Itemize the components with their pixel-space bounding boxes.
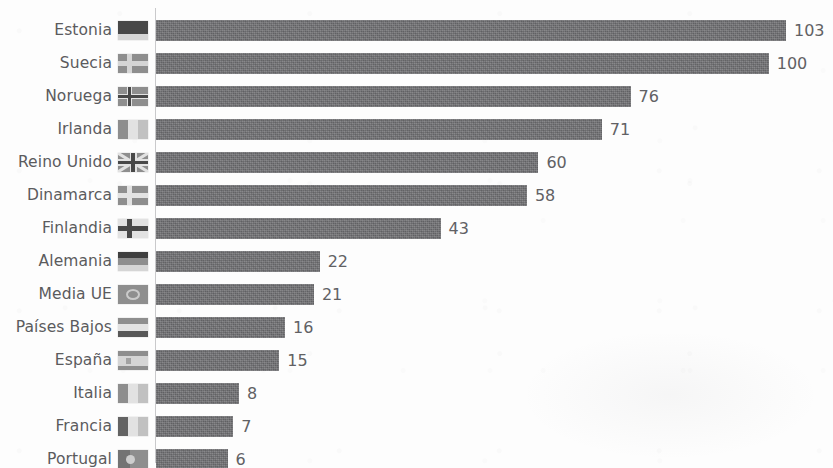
category-label: Reino Unido (0, 146, 112, 179)
flag-estonia-icon (118, 21, 148, 40)
chart-row: Países Bajos16 (0, 311, 833, 344)
chart-row: Estonia103 (0, 14, 833, 47)
category-label: Italia (0, 377, 112, 410)
flag-ireland-icon (118, 120, 148, 139)
chart-row: Francia7 (0, 410, 833, 443)
flag-spain-icon (118, 351, 148, 370)
category-label: Dinamarca (0, 179, 112, 212)
bar (156, 185, 527, 206)
chart-row: Suecia100 (0, 47, 833, 80)
category-label: Finlandia (0, 212, 112, 245)
bar-value-label: 58 (535, 185, 555, 206)
category-label: Portugal (0, 443, 112, 468)
category-label: Países Bajos (0, 311, 112, 344)
bar-value-label: 103 (794, 20, 825, 41)
flag-united-kingdom-icon (118, 153, 148, 172)
category-label: Francia (0, 410, 112, 443)
bar (156, 284, 314, 305)
flag-germany-icon (118, 252, 148, 271)
flag-sweden-icon (118, 54, 148, 73)
category-label: Estonia (0, 14, 112, 47)
bar-value-label: 71 (610, 119, 630, 140)
bar (156, 86, 631, 107)
chart-row: España15 (0, 344, 833, 377)
bar-value-label: 7 (241, 416, 251, 437)
chart-row: Italia8 (0, 377, 833, 410)
bar (156, 53, 769, 74)
category-label: Suecia (0, 47, 112, 80)
category-label: Media UE (0, 278, 112, 311)
flag-italy-icon (118, 384, 148, 403)
chart-row: Alemania22 (0, 245, 833, 278)
chart-row: Portugal6 (0, 443, 833, 468)
bar (156, 383, 239, 404)
bar (156, 218, 441, 239)
bar (156, 416, 233, 437)
bar (156, 449, 228, 468)
flag-portugal-icon (118, 450, 148, 468)
category-label: España (0, 344, 112, 377)
bar-value-label: 6 (236, 449, 246, 468)
flag-norway-icon (118, 87, 148, 106)
chart-row: Media UE21 (0, 278, 833, 311)
chart-row: Finlandia43 (0, 212, 833, 245)
chart-row: Irlanda71 (0, 113, 833, 146)
bar-value-label: 21 (322, 284, 342, 305)
chart-row: Noruega76 (0, 80, 833, 113)
category-label: Alemania (0, 245, 112, 278)
bar-value-label: 60 (546, 152, 566, 173)
bar-value-label: 43 (449, 218, 469, 239)
bar (156, 152, 538, 173)
category-label: Noruega (0, 80, 112, 113)
flag-france-icon (118, 417, 148, 436)
flag-finland-icon (118, 219, 148, 238)
bar-value-label: 15 (287, 350, 307, 371)
chart-row: Dinamarca58 (0, 179, 833, 212)
bar (156, 119, 602, 140)
bar-value-label: 76 (639, 86, 659, 107)
bar-value-label: 100 (777, 53, 808, 74)
flag-netherlands-icon (118, 318, 148, 337)
bar (156, 317, 285, 338)
bar-value-label: 22 (328, 251, 348, 272)
bar-value-label: 8 (247, 383, 257, 404)
bar-value-label: 16 (293, 317, 313, 338)
bar-chart: Estonia103Suecia100Noruega76Irlanda71Rei… (0, 0, 833, 468)
flag-denmark-icon (118, 186, 148, 205)
flag-european-union-icon (118, 285, 148, 304)
chart-row: Reino Unido60 (0, 146, 833, 179)
bar (156, 350, 279, 371)
bar (156, 20, 786, 41)
bar (156, 251, 320, 272)
category-label: Irlanda (0, 113, 112, 146)
